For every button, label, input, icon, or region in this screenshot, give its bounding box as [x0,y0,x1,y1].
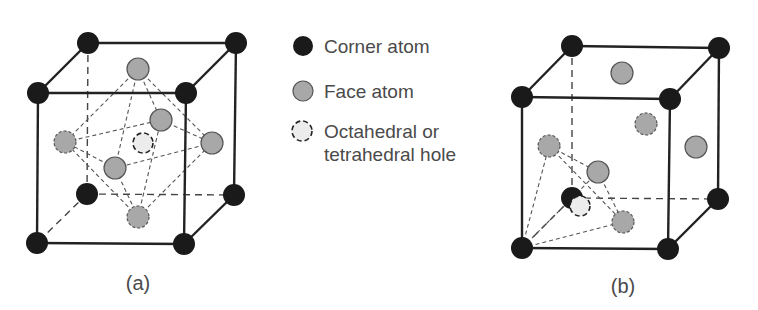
corner-atom [708,37,730,59]
corner-atom [225,32,247,54]
corner-atom-legend-icon [293,36,313,56]
corner-atom [511,237,533,259]
corner-atom [657,238,679,260]
face-atom-front [587,161,609,183]
face-atom-right [685,136,707,158]
figure-a: (a) [26,32,247,294]
fcc-holes-diagram: (a) Corner atom Face atom Octahedral or … [0,0,758,310]
legend-face-label: Face atom [324,81,414,102]
corner-atom [26,232,48,254]
face-atom-bottom [612,211,634,233]
hole-legend-icon [292,121,312,141]
tetrahedral-hole [570,196,590,216]
face-atom-left [538,135,560,157]
caption-b: (b) [611,275,635,297]
corner-atom [561,35,583,57]
legend-corner-label: Corner atom [324,36,430,57]
corner-atom [77,32,99,54]
face-atom-top [127,58,149,80]
corner-atom [659,88,681,110]
face-atom-legend-icon [293,81,313,101]
face-atom-front [104,157,126,179]
face-atom-bottom [127,206,149,228]
caption-a: (a) [126,272,150,294]
corner-atom [27,82,49,104]
corner-atom [175,82,197,104]
corner-atom [223,184,245,206]
face-atom-back [150,109,172,131]
octahedral-hole [133,133,153,153]
corner-atom [76,183,98,205]
corner-atom [173,233,195,255]
corner-atom [511,86,533,108]
corner-atom [707,188,729,210]
face-atom-right [201,132,223,154]
legend: Corner atom Face atom Octahedral or tetr… [292,36,456,165]
legend-hole-label-line1: Octahedral or [324,121,440,142]
figure-b: (b) [511,35,730,297]
face-atom-top [611,62,633,84]
face-atom-back [635,113,657,135]
legend-hole-label-line2: tetrahedral hole [324,144,456,165]
face-atom-left [54,131,76,153]
